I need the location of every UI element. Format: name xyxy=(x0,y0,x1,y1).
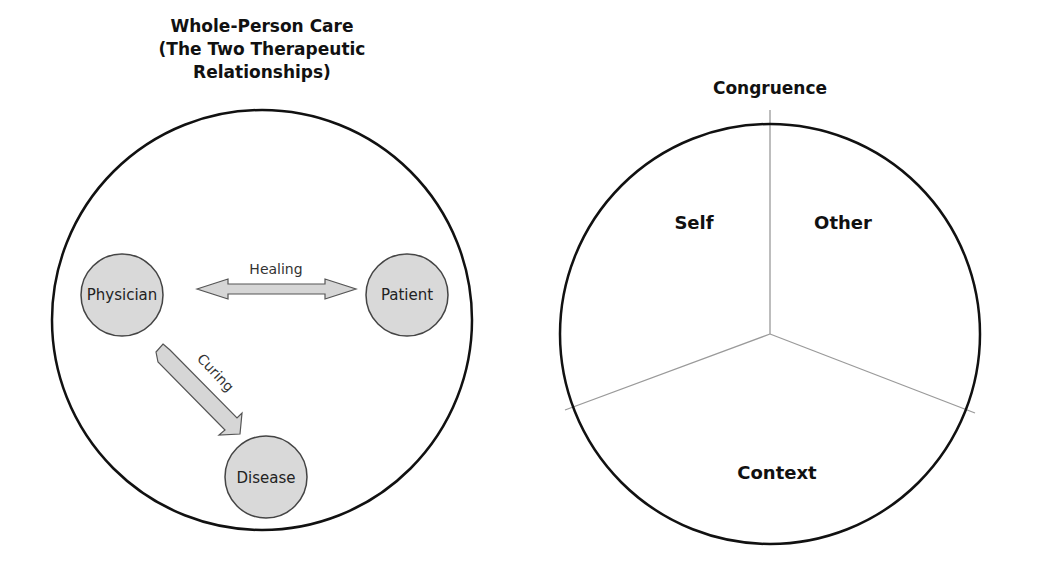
left-title-line-1: Whole-Person Care xyxy=(171,16,354,36)
curing-arrow: Curing xyxy=(156,344,242,435)
node-disease: Disease xyxy=(225,436,307,518)
left-title-line-3: Relationships) xyxy=(193,62,331,82)
segment-context-label: Context xyxy=(737,462,817,483)
divider-self-context xyxy=(565,334,770,410)
segment-self-label: Self xyxy=(674,212,713,233)
whole-person-care-diagram: Whole-Person Care (The Two Therapeutic R… xyxy=(52,16,472,530)
node-patient: Patient xyxy=(366,254,448,336)
segment-other-label: Other xyxy=(814,212,872,233)
diagram-canvas: Whole-Person Care (The Two Therapeutic R… xyxy=(0,0,1038,584)
congruence-diagram: Congruence Self Other Context xyxy=(560,78,980,544)
healing-arrow: Healing xyxy=(197,261,356,299)
right-title: Congruence xyxy=(713,78,827,98)
disease-label: Disease xyxy=(237,469,296,487)
double-arrow-icon xyxy=(197,279,356,299)
node-physician: Physician xyxy=(81,254,163,336)
healing-label: Healing xyxy=(249,261,302,277)
divider-other-context xyxy=(770,334,975,413)
physician-label: Physician xyxy=(87,286,158,304)
left-title-line-2: (The Two Therapeutic xyxy=(159,39,366,59)
patient-label: Patient xyxy=(381,286,433,304)
